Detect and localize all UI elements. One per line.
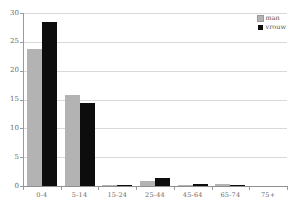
y-axis-tick-label: 0	[2, 183, 19, 190]
x-axis-category-label: 15-24	[98, 192, 136, 199]
x-axis-tick	[287, 187, 288, 190]
bar-man-45-64	[178, 185, 193, 186]
y-axis-tick-label: 15	[2, 96, 19, 103]
x-axis-tick	[98, 187, 99, 190]
x-axis-tick	[212, 187, 213, 190]
x-axis-category-label: 25-44	[136, 192, 174, 199]
x-axis-category-label: 75+	[249, 192, 287, 199]
legend-label: man	[266, 15, 280, 22]
x-axis-category-label: 5-14	[61, 192, 99, 199]
gridline	[23, 128, 287, 129]
bar-vrouw-0-4	[42, 22, 57, 186]
bar-man-15-24	[102, 185, 117, 186]
y-axis-line	[23, 13, 24, 186]
bar-man-5-14	[65, 95, 80, 186]
y-axis-tick-label: 20	[2, 67, 19, 74]
gridline	[23, 71, 287, 72]
bar-vrouw-5-14	[80, 103, 95, 186]
legend-label: vrouw	[266, 24, 286, 31]
bar-man-25-44	[140, 181, 155, 186]
gridline	[23, 157, 287, 158]
legend-swatch-icon	[258, 16, 263, 21]
x-axis-tick	[136, 187, 137, 190]
legend-item-vrouw: vrouw	[258, 24, 286, 31]
y-axis-tick-label: 30	[2, 10, 19, 17]
plot-area: 0510152025300-45-1415-2425-4445-6465-747…	[0, 0, 291, 210]
bar-chart: 0510152025300-45-1415-2425-4445-6465-747…	[0, 0, 291, 210]
bar-vrouw-25-44	[155, 178, 170, 186]
x-axis-category-label: 45-64	[174, 192, 212, 199]
x-axis-tick	[249, 187, 250, 190]
y-axis-tick-label: 10	[2, 125, 19, 132]
gridline	[23, 42, 287, 43]
legend-swatch-icon	[258, 25, 263, 30]
y-axis-tick-label: 5	[2, 154, 19, 161]
x-axis-tick	[61, 187, 62, 190]
x-axis-tick	[23, 187, 24, 190]
x-axis-line	[23, 186, 288, 187]
bar-vrouw-15-24	[117, 185, 132, 186]
bar-vrouw-65-74	[230, 185, 245, 186]
bar-man-0-4	[27, 49, 42, 186]
legend-item-man: man	[258, 15, 286, 22]
gridline	[23, 13, 287, 14]
x-axis-category-label: 0-4	[23, 192, 61, 199]
gridline	[23, 100, 287, 101]
bar-man-65-74	[215, 184, 230, 186]
y-axis-tick-label: 25	[2, 38, 19, 45]
x-axis-category-label: 65-74	[212, 192, 250, 199]
legend: manvrouw	[258, 15, 286, 31]
bar-vrouw-45-64	[193, 184, 208, 186]
x-axis-tick	[174, 187, 175, 190]
